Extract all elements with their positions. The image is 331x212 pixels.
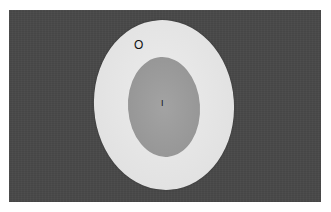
- outer-label: O: [134, 40, 143, 51]
- inner-label: I: [161, 98, 164, 109]
